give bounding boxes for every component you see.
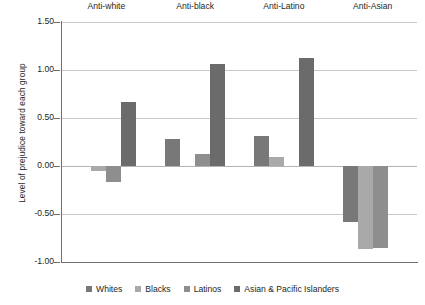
legend-label: Latinos [194, 284, 222, 294]
y-axis-tick-label: 0.00 [10, 160, 54, 170]
legend-swatch-icon [184, 286, 190, 292]
legend-label: Whites [96, 284, 122, 294]
bar-anti-latino-blacks [269, 157, 284, 166]
y-axis-tick-label: 1.50 [10, 16, 54, 26]
legend-label: Asian & Pacific Islanders [244, 284, 339, 294]
legend-swatch-icon [234, 286, 240, 292]
y-axis-tick [54, 166, 60, 167]
bar-anti-asian-whites [343, 166, 358, 222]
group-label-anti-asian: Anti-Asian [328, 1, 417, 11]
y-axis-tick [54, 262, 60, 263]
y-axis-tick [54, 214, 60, 215]
y-axis-tick-label: 0.50 [10, 112, 54, 122]
legend-item-latinos[interactable]: Latinos [184, 284, 222, 294]
legend-item-blacks[interactable]: Blacks [135, 284, 170, 294]
y-axis-tick-label: -0.50 [10, 208, 54, 218]
gridline [62, 118, 417, 119]
bar-anti-asian-latinos [373, 166, 388, 248]
group-label-anti-latino: Anti-Latino [240, 1, 329, 11]
y-axis-tick [54, 22, 60, 23]
legend-swatch-icon [86, 286, 92, 292]
bar-anti-white-latinos [106, 166, 121, 182]
bar-anti-white-asian-pacific-islanders [121, 102, 136, 166]
bar-anti-latino-whites [254, 136, 269, 166]
chart-legend: WhitesBlacksLatinosAsian & Pacific Islan… [0, 284, 425, 294]
x-axis-line [61, 262, 418, 263]
legend-item-asian-pacific-islanders[interactable]: Asian & Pacific Islanders [234, 284, 339, 294]
bar-anti-black-asian-pacific-islanders [210, 64, 225, 166]
plot-area [62, 22, 417, 262]
legend-item-whites[interactable]: Whites [86, 284, 122, 294]
bar-anti-black-latinos [195, 154, 210, 166]
legend-label: Blacks [145, 284, 170, 294]
prejudice-bar-chart: Level of prejudice toward each group 1.5… [0, 0, 425, 305]
bar-anti-asian-blacks [358, 166, 373, 249]
bar-anti-white-blacks [91, 166, 106, 171]
y-axis-tick-label: 1.00 [10, 64, 54, 74]
y-axis-tick-labels: 1.501.000.500.00-0.50-1.00 [8, 22, 54, 262]
gridline [62, 70, 417, 71]
group-label-anti-white: Anti-white [62, 1, 151, 11]
legend-swatch-icon [135, 286, 141, 292]
gridline [62, 22, 417, 23]
y-axis-tick-label: -1.00 [10, 256, 54, 266]
y-axis-tick [54, 70, 60, 71]
y-axis-tick [54, 118, 60, 119]
group-label-anti-black: Anti-black [151, 1, 240, 11]
bar-anti-latino-asian-pacific-islanders [299, 58, 314, 166]
bar-anti-black-whites [165, 139, 180, 166]
